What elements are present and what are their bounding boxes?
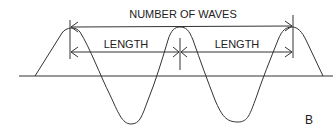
number-of-waves-arrow: [71, 26, 292, 27]
length-label-right: LENGTH: [215, 38, 260, 50]
wave-diagram: NUMBER OF WAVES LENGTH LENGTH B: [0, 0, 335, 134]
title-label: NUMBER OF WAVES: [129, 8, 237, 20]
panel-label: B: [305, 113, 313, 127]
length-label-left: LENGTH: [104, 38, 149, 50]
